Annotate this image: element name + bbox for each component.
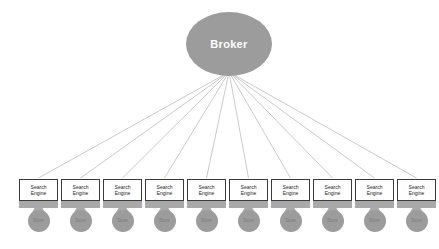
search-engine-screen: SearchEngine <box>103 179 142 201</box>
search-engine-label-line2: Engine <box>199 190 215 196</box>
store-label: Store <box>159 218 170 223</box>
store-node[interactable]: Store <box>196 210 218 232</box>
search-engine-screen: SearchEngine <box>145 179 184 201</box>
broker-to-search-engine-edge <box>229 72 375 178</box>
broker-to-search-engine-edge <box>123 72 230 178</box>
search-engine-node[interactable]: StoreSearchEngine <box>187 179 226 230</box>
search-engine-node[interactable]: StoreSearchEngine <box>61 179 100 230</box>
search-engine-label-line2: Engine <box>31 190 47 196</box>
search-engine-screen: SearchEngine <box>271 179 310 201</box>
search-engine-node[interactable]: StoreSearchEngine <box>313 179 352 230</box>
search-engine-node[interactable]: StoreSearchEngine <box>19 179 58 230</box>
broker-to-search-engine-edge <box>229 72 249 178</box>
broker-to-search-engine-edge <box>165 72 230 178</box>
broker-search-engine-diagram: Broker StoreSearchEngineStoreSearchEngin… <box>0 0 439 249</box>
store-node[interactable]: Store <box>280 210 302 232</box>
broker-to-search-engine-edge <box>207 72 230 178</box>
search-engine-node[interactable]: StoreSearchEngine <box>271 179 310 230</box>
broker-node[interactable]: Broker <box>186 12 272 76</box>
broker-to-search-engine-edge <box>229 72 333 178</box>
search-engine-screen: SearchEngine <box>355 179 394 201</box>
search-engine-label-line2: Engine <box>409 190 425 196</box>
search-engine-base <box>19 201 58 208</box>
store-node[interactable]: Store <box>238 210 260 232</box>
search-engine-screen: SearchEngine <box>397 179 436 201</box>
broker-label: Broker <box>210 38 247 50</box>
store-label: Store <box>285 218 296 223</box>
search-engine-screen: SearchEngine <box>229 179 268 201</box>
search-engine-base <box>103 201 142 208</box>
search-engine-label-line2: Engine <box>325 190 341 196</box>
store-label: Store <box>117 218 128 223</box>
broker-to-search-engine-edge <box>229 72 291 178</box>
search-engine-screen: SearchEngine <box>187 179 226 201</box>
store-node[interactable]: Store <box>406 210 428 232</box>
search-engine-label-line2: Engine <box>115 190 131 196</box>
store-node[interactable]: Store <box>70 210 92 232</box>
search-engine-node[interactable]: StoreSearchEngine <box>103 179 142 230</box>
store-node[interactable]: Store <box>28 210 50 232</box>
store-label: Store <box>411 218 422 223</box>
broker-to-search-engine-edge <box>81 72 230 178</box>
search-engine-node[interactable]: StoreSearchEngine <box>145 179 184 230</box>
search-engine-base <box>187 201 226 208</box>
search-engine-base <box>229 201 268 208</box>
search-engine-base <box>271 201 310 208</box>
search-engine-node[interactable]: StoreSearchEngine <box>229 179 268 230</box>
broker-to-search-engine-edge <box>229 72 417 178</box>
store-label: Store <box>327 218 338 223</box>
broker-to-search-engine-edge <box>39 72 230 178</box>
store-node[interactable]: Store <box>364 210 386 232</box>
search-engine-base <box>145 201 184 208</box>
store-node[interactable]: Store <box>112 210 134 232</box>
store-label: Store <box>201 218 212 223</box>
search-engine-screen: SearchEngine <box>61 179 100 201</box>
search-engine-label-line2: Engine <box>157 190 173 196</box>
store-node[interactable]: Store <box>154 210 176 232</box>
search-engine-base <box>355 201 394 208</box>
search-engine-label-line2: Engine <box>73 190 89 196</box>
store-node[interactable]: Store <box>322 210 344 232</box>
store-label: Store <box>33 218 44 223</box>
search-engine-screen: SearchEngine <box>19 179 58 201</box>
search-engine-label-line2: Engine <box>367 190 383 196</box>
search-engine-label-line2: Engine <box>241 190 257 196</box>
search-engine-screen: SearchEngine <box>313 179 352 201</box>
search-engine-base <box>61 201 100 208</box>
search-engine-node[interactable]: StoreSearchEngine <box>397 179 436 230</box>
search-engine-base <box>397 201 436 208</box>
search-engine-node[interactable]: StoreSearchEngine <box>355 179 394 230</box>
store-label: Store <box>243 218 254 223</box>
search-engine-base <box>313 201 352 208</box>
search-engine-label-line2: Engine <box>283 190 299 196</box>
store-label: Store <box>369 218 380 223</box>
store-label: Store <box>75 218 86 223</box>
